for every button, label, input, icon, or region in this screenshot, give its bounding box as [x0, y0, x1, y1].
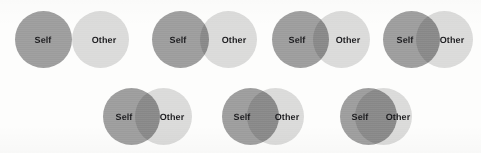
- ios-pair-5[interactable]: SelfOther: [103, 88, 192, 145]
- self-label: Self: [397, 36, 414, 45]
- venn-diagram: SelfOther: [272, 11, 374, 68]
- self-label: Self: [289, 36, 306, 45]
- self-label: Self: [352, 113, 369, 122]
- ios-pair-1[interactable]: SelfOther: [15, 11, 133, 68]
- venn-diagram: SelfOther: [152, 11, 261, 68]
- other-label: Other: [222, 36, 247, 45]
- ios-pair-2[interactable]: SelfOther: [152, 11, 261, 68]
- other-label: Other: [275, 113, 300, 122]
- other-label: Other: [386, 113, 411, 122]
- venn-diagram: SelfOther: [222, 88, 308, 145]
- ios-pair-4[interactable]: SelfOther: [383, 11, 477, 68]
- ios-pair-6[interactable]: SelfOther: [222, 88, 308, 145]
- other-label: Other: [92, 36, 117, 45]
- ios-scale-figure: SelfOtherSelfOtherSelfOtherSelfOtherSelf…: [0, 0, 481, 153]
- self-label: Self: [116, 113, 133, 122]
- self-label: Self: [234, 113, 251, 122]
- venn-diagram: SelfOther: [103, 88, 192, 145]
- venn-diagram: SelfOther: [340, 88, 412, 145]
- other-label: Other: [440, 36, 465, 45]
- venn-diagram: SelfOther: [15, 11, 133, 68]
- ios-pair-3[interactable]: SelfOther: [272, 11, 374, 68]
- ios-pair-7[interactable]: SelfOther: [340, 88, 412, 145]
- self-label: Self: [35, 36, 52, 45]
- self-label: Self: [170, 36, 187, 45]
- other-label: Other: [336, 36, 361, 45]
- other-label: Other: [160, 113, 185, 122]
- venn-diagram: SelfOther: [383, 11, 477, 68]
